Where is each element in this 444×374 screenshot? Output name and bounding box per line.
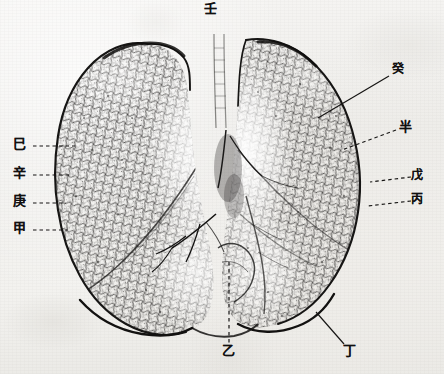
leader-bottom-right bbox=[316, 312, 344, 344]
label-bottom-yi[interactable]: 乙 bbox=[220, 344, 236, 357]
leader-right-3 bbox=[370, 177, 411, 182]
label-left-si[interactable]: 巳 bbox=[11, 137, 27, 150]
lung-illustration bbox=[0, 0, 444, 374]
label-right-wu[interactable]: 戊 bbox=[409, 169, 425, 181]
leader-right-4 bbox=[368, 201, 411, 206]
label-left-jia[interactable]: 甲 bbox=[11, 221, 27, 234]
label-right-gui[interactable]: 癸 bbox=[390, 63, 406, 75]
label-right-ban[interactable]: 半 bbox=[397, 120, 413, 133]
label-bottom-ding[interactable]: 丁 bbox=[341, 344, 357, 357]
figure-root: 壬 巳 辛 庚 甲 癸 半 戊 丙 乙 丁 Lungs (anterior vi… bbox=[0, 0, 444, 374]
label-right-bing[interactable]: 丙 bbox=[409, 193, 425, 205]
label-left-geng[interactable]: 庚 bbox=[11, 194, 27, 207]
label-top-center[interactable]: 壬 bbox=[202, 2, 218, 15]
label-left-xin[interactable]: 辛 bbox=[11, 166, 27, 179]
